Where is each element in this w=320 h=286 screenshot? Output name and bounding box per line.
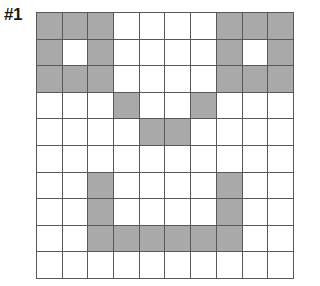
- grid-cell-filled[interactable]: [165, 119, 191, 146]
- grid-cell-empty[interactable]: [216, 119, 242, 146]
- grid-cell-filled[interactable]: [37, 39, 63, 66]
- grid-cell-empty[interactable]: [191, 199, 217, 226]
- grid-cell-empty[interactable]: [114, 252, 140, 279]
- grid-cell-empty[interactable]: [88, 119, 114, 146]
- grid-cell-empty[interactable]: [165, 199, 191, 226]
- grid-cell-filled[interactable]: [216, 13, 242, 40]
- grid-cell-filled[interactable]: [88, 66, 114, 93]
- grid-cell-empty[interactable]: [37, 145, 63, 172]
- grid-cell-filled[interactable]: [37, 66, 63, 93]
- grid-cell-empty[interactable]: [165, 145, 191, 172]
- grid-cell-empty[interactable]: [62, 172, 88, 199]
- grid-cell-empty[interactable]: [62, 252, 88, 279]
- grid-cell-empty[interactable]: [139, 252, 165, 279]
- grid-cell-filled[interactable]: [242, 66, 268, 93]
- grid-cell-empty[interactable]: [216, 252, 242, 279]
- grid-cell-empty[interactable]: [139, 13, 165, 40]
- grid-cell-empty[interactable]: [216, 145, 242, 172]
- grid-cell-filled[interactable]: [216, 66, 242, 93]
- grid-cell-empty[interactable]: [242, 145, 268, 172]
- grid-cell-empty[interactable]: [114, 39, 140, 66]
- grid-cell-empty[interactable]: [139, 199, 165, 226]
- grid-cell-empty[interactable]: [139, 39, 165, 66]
- grid-cell-filled[interactable]: [242, 13, 268, 40]
- grid-cell-empty[interactable]: [268, 119, 294, 146]
- grid-cell-empty[interactable]: [37, 172, 63, 199]
- grid-cell-empty[interactable]: [114, 66, 140, 93]
- grid-cell-filled[interactable]: [268, 13, 294, 40]
- grid-cell-empty[interactable]: [268, 92, 294, 119]
- grid-cell-empty[interactable]: [165, 66, 191, 93]
- grid-cell-filled[interactable]: [88, 199, 114, 226]
- grid-cell-empty[interactable]: [114, 172, 140, 199]
- grid-cell-empty[interactable]: [191, 119, 217, 146]
- grid-cell-empty[interactable]: [268, 145, 294, 172]
- grid-cell-empty[interactable]: [268, 199, 294, 226]
- grid-cell-empty[interactable]: [268, 225, 294, 252]
- grid-cell-empty[interactable]: [114, 119, 140, 146]
- grid-cell-filled[interactable]: [139, 225, 165, 252]
- grid-cell-filled[interactable]: [216, 225, 242, 252]
- grid-cell-empty[interactable]: [37, 119, 63, 146]
- grid-cell-filled[interactable]: [216, 39, 242, 66]
- grid-cell-empty[interactable]: [88, 92, 114, 119]
- grid-cell-empty[interactable]: [242, 92, 268, 119]
- grid-cell-empty[interactable]: [191, 172, 217, 199]
- grid-cell-empty[interactable]: [88, 252, 114, 279]
- grid-cell-empty[interactable]: [242, 225, 268, 252]
- grid-cell-empty[interactable]: [37, 199, 63, 226]
- grid-cell-empty[interactable]: [242, 39, 268, 66]
- grid-cell-empty[interactable]: [88, 145, 114, 172]
- grid-cell-empty[interactable]: [62, 145, 88, 172]
- grid-cell-empty[interactable]: [139, 92, 165, 119]
- grid-cell-filled[interactable]: [37, 13, 63, 40]
- grid-cell-empty[interactable]: [191, 39, 217, 66]
- grid-cell-filled[interactable]: [139, 119, 165, 146]
- grid-cell-filled[interactable]: [165, 225, 191, 252]
- grid-cell-empty[interactable]: [242, 199, 268, 226]
- grid-cell-filled[interactable]: [216, 199, 242, 226]
- grid-cell-empty[interactable]: [268, 172, 294, 199]
- grid-cell-filled[interactable]: [191, 225, 217, 252]
- grid-cell-filled[interactable]: [216, 172, 242, 199]
- grid-cell-filled[interactable]: [62, 66, 88, 93]
- grid-cell-empty[interactable]: [114, 13, 140, 40]
- grid-cell-empty[interactable]: [242, 252, 268, 279]
- grid-cell-empty[interactable]: [62, 119, 88, 146]
- grid-cell-empty[interactable]: [191, 66, 217, 93]
- grid-cell-filled[interactable]: [114, 92, 140, 119]
- grid-cell-filled[interactable]: [191, 92, 217, 119]
- grid-cell-empty[interactable]: [114, 145, 140, 172]
- grid-cell-empty[interactable]: [37, 252, 63, 279]
- grid-cell-empty[interactable]: [165, 13, 191, 40]
- grid-cell-empty[interactable]: [62, 92, 88, 119]
- grid-cell-empty[interactable]: [191, 13, 217, 40]
- grid-cell-empty[interactable]: [114, 199, 140, 226]
- grid-cell-filled[interactable]: [268, 66, 294, 93]
- grid-cell-filled[interactable]: [62, 13, 88, 40]
- grid-cell-empty[interactable]: [62, 225, 88, 252]
- grid-cell-empty[interactable]: [165, 92, 191, 119]
- grid-cell-empty[interactable]: [191, 252, 217, 279]
- grid-cell-empty[interactable]: [242, 172, 268, 199]
- grid-cell-filled[interactable]: [114, 225, 140, 252]
- grid-cell-empty[interactable]: [139, 172, 165, 199]
- grid-cell-filled[interactable]: [88, 39, 114, 66]
- grid-cell-filled[interactable]: [88, 13, 114, 40]
- grid-cell-empty[interactable]: [165, 252, 191, 279]
- grid-cell-empty[interactable]: [139, 145, 165, 172]
- grid-cell-empty[interactable]: [139, 66, 165, 93]
- grid-cell-empty[interactable]: [62, 199, 88, 226]
- grid-cell-empty[interactable]: [216, 92, 242, 119]
- grid-cell-empty[interactable]: [242, 119, 268, 146]
- grid-cell-empty[interactable]: [191, 145, 217, 172]
- grid-cell-empty[interactable]: [37, 225, 63, 252]
- grid-cell-filled[interactable]: [88, 172, 114, 199]
- grid-cell-empty[interactable]: [165, 39, 191, 66]
- grid-cell-empty[interactable]: [268, 252, 294, 279]
- grid-cell-empty[interactable]: [62, 39, 88, 66]
- grid-cell-empty[interactable]: [165, 172, 191, 199]
- grid-cell-empty[interactable]: [37, 92, 63, 119]
- grid-cell-filled[interactable]: [268, 39, 294, 66]
- grid-cell-filled[interactable]: [88, 225, 114, 252]
